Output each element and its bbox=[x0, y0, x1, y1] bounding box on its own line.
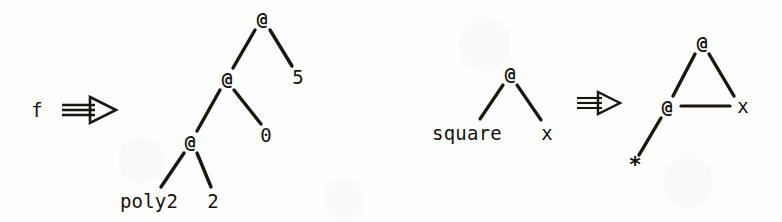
edge-root-to-mid bbox=[233, 30, 255, 68]
edge-low-to-two bbox=[197, 153, 211, 187]
node-x-lhs: x bbox=[541, 124, 552, 143]
edge-rat-to-x bbox=[517, 85, 541, 120]
edge-gtop-to-gx bbox=[709, 54, 734, 96]
double-arrow-right-icon-2 bbox=[575, 88, 623, 118]
node-at-mid-left: @ bbox=[222, 70, 232, 88]
edge-gtop-to-gleft bbox=[673, 54, 695, 96]
node-square: square bbox=[432, 124, 502, 143]
node-five: 5 bbox=[292, 68, 303, 87]
node-star-operator: * bbox=[628, 154, 641, 176]
node-at-low-left: @ bbox=[185, 133, 195, 151]
node-at-top-right: @ bbox=[505, 65, 515, 83]
node-x-graph: x bbox=[737, 97, 748, 116]
figure-canvas: f @ @ @ 5 0 poly2 2 @ square x @ @ x * bbox=[0, 0, 782, 222]
edge-gleft-to-star bbox=[639, 118, 661, 155]
node-at-root-left: @ bbox=[257, 10, 267, 28]
double-arrow-right-icon-1 bbox=[59, 93, 121, 127]
edge-rat-to-square bbox=[480, 85, 503, 119]
node-f: f bbox=[31, 101, 42, 120]
edge-mid-to-low bbox=[197, 90, 220, 131]
node-at-graph-left: @ bbox=[662, 98, 672, 116]
node-poly2: poly2 bbox=[120, 192, 178, 211]
edge-low-to-poly2 bbox=[161, 153, 184, 187]
node-at-graph-top: @ bbox=[697, 34, 707, 52]
edge-mid-to-zero bbox=[234, 90, 261, 124]
edge-root-to-five bbox=[270, 30, 292, 66]
node-two: 2 bbox=[207, 192, 218, 211]
node-zero: 0 bbox=[260, 126, 271, 145]
